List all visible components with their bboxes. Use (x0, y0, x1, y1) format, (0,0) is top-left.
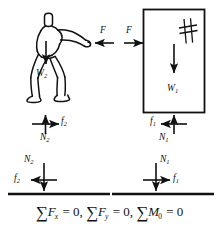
ground-right-forces (143, 163, 170, 191)
crosshatch-mark (179, 18, 198, 43)
eq2-rhs: = 0, (113, 204, 133, 219)
eq3-rhs: = 0 (166, 204, 183, 219)
force-label-block: F (126, 26, 132, 36)
weight-label-person: W2 (36, 69, 47, 79)
equilibrium-equations: ∑Fx = 0, ∑Fy = 0, ∑M0 = 0 (0, 203, 219, 223)
force-label-person: F (100, 26, 106, 36)
person-figure (27, 13, 91, 102)
normal-label-block-contact: N1 (159, 133, 169, 143)
sigma-symbol-3: ∑ (136, 203, 148, 222)
weight-label-block-sub: 1 (175, 87, 178, 94)
friction-label-ground-left-sub: 2 (17, 177, 20, 184)
normal-label-block-contact-sub: 1 (165, 136, 168, 143)
sigma-symbol-1: ∑ (36, 203, 48, 222)
friction-label-ground-right: f1 (173, 174, 179, 184)
eq2-subscript: y (105, 212, 108, 221)
free-body-diagram: F F W2 W1 f2 N2 f1 N1 N2 f2 N1 f1 ∑Fx = … (0, 0, 219, 230)
normal-label-ground-left-sub: 2 (30, 158, 33, 165)
friction-label-ground-right-sub: 1 (176, 177, 179, 184)
normal-label-ground-right-sub: 1 (166, 158, 169, 165)
diagram-canvas (0, 0, 219, 230)
eq3-subscript: 0 (158, 212, 162, 221)
weight-label-block: W1 (167, 84, 178, 94)
eq1-subscript: x (55, 212, 58, 221)
sigma-symbol-2: ∑ (86, 203, 98, 222)
friction-label-person-contact: f2 (61, 117, 67, 127)
friction-label-person-contact-sub: 2 (64, 120, 67, 127)
ground-left-forces (31, 163, 57, 191)
normal-label-ground-right: N1 (160, 155, 170, 165)
normal-label-person-contact: N2 (40, 133, 50, 143)
friction-label-ground-left: f2 (14, 174, 20, 184)
friction-label-block-contact-sub: 1 (153, 120, 156, 127)
eq1-rhs: = 0, (62, 204, 82, 219)
weight-label-person-sub: 2 (44, 72, 47, 79)
normal-label-person-contact-sub: 2 (46, 136, 49, 143)
normal-label-ground-left: N2 (24, 155, 34, 165)
friction-label-block-contact: f1 (150, 117, 156, 127)
